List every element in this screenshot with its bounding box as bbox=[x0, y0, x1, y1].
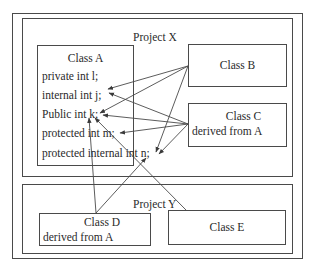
class-a-member-public: Public int k; bbox=[42, 108, 98, 121]
project-x-title: Project X bbox=[133, 31, 177, 44]
class-c-subtitle: derived from A bbox=[192, 125, 262, 138]
class-c-title: Class C bbox=[194, 110, 293, 123]
class-a-title: Class A bbox=[37, 52, 134, 65]
class-e-title: Class E bbox=[168, 221, 286, 234]
class-b-title: Class B bbox=[188, 59, 287, 72]
class-a-member-protected-internal: protected internal int n; bbox=[42, 147, 150, 160]
class-d-title: Class D bbox=[46, 216, 158, 229]
class-a-member-protected: protected int m; bbox=[42, 127, 115, 140]
class-d-subtitle: derived from A bbox=[43, 231, 113, 244]
class-a-member-internal: internal int j; bbox=[42, 89, 101, 102]
class-a-member-private: private int l; bbox=[42, 70, 98, 83]
